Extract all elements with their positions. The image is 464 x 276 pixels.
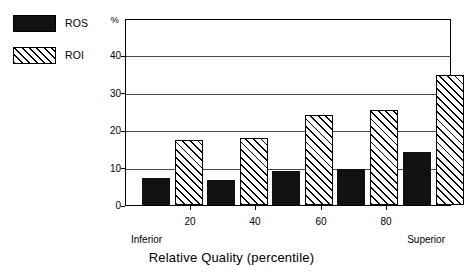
legend-label-ros: ROS [65,18,88,29]
x-tickmark-20 [190,206,191,210]
x-tickmark-40 [255,206,256,210]
bar-ros-3 [272,171,300,205]
x-tickmark-60 [321,206,322,210]
bar-ros-4 [337,169,365,205]
x-tick-label-20: 20 [184,216,195,227]
diagonal-hatch-swatch-icon [13,47,56,64]
legend-label-roi: ROI [65,50,84,61]
y-tick-label-40: 40 [95,51,121,61]
x-tick-label-60: 60 [315,216,326,227]
bar-ros-5 [403,152,431,205]
bar-roi-5 [436,75,464,205]
y-tick-label-0: 0 [95,201,121,211]
x-tickmark-80 [386,206,387,210]
y-axis-unit-label: % [111,15,119,25]
x-axis-title: Relative Quality (percentile) [0,250,463,265]
x-tick-label-40: 40 [249,216,260,227]
bar-ros-2 [207,180,235,205]
x-axis-right-end-label: Superior [407,234,445,245]
y-tick-label-10: 10 [95,164,121,174]
x-tick-label-80: 80 [380,216,391,227]
bar-roi-1 [175,140,203,205]
bar-roi-2 [240,138,268,205]
bar-ros-1 [142,178,170,205]
x-axis-left-end-label: Inferior [131,234,162,245]
y-tick-label-20: 20 [95,126,121,136]
y-axis: % 40 30 20 10 0 [95,10,121,215]
bar-series-container [126,20,450,205]
bar-roi-4 [370,110,398,205]
solid-black-swatch-icon [13,15,56,32]
bar-roi-3 [305,115,333,205]
y-tick-label-30: 30 [95,89,121,99]
plot-area [125,19,451,206]
